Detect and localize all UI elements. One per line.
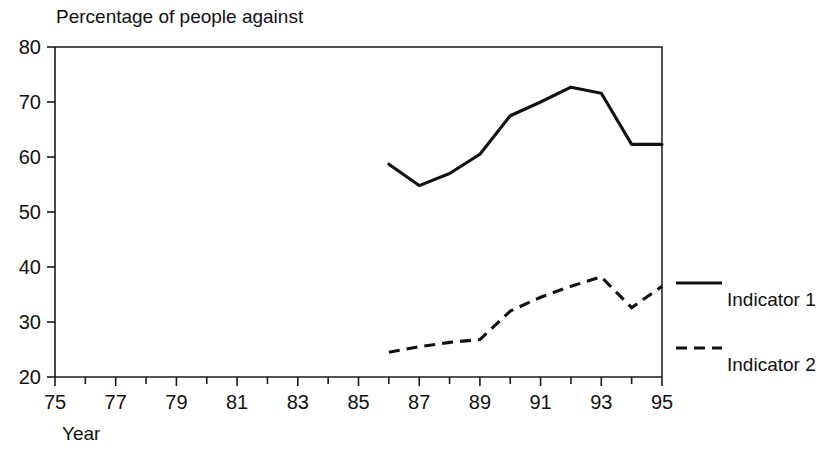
y-tick-label: 80 [19, 36, 41, 58]
plot-border [55, 47, 662, 377]
x-tick-label: 95 [651, 391, 673, 413]
x-tick-label: 85 [347, 391, 369, 413]
x-tick-label: 87 [408, 391, 430, 413]
y-tick-label: 40 [19, 256, 41, 278]
data-series-line-2 [389, 277, 662, 352]
x-tick-label: 91 [529, 391, 551, 413]
x-axis-title: Year [62, 423, 101, 444]
x-tick-label: 93 [590, 391, 612, 413]
legend-label-2: Indicator 2 [727, 354, 816, 375]
chart-legend: Indicator 1Indicator 2 [676, 283, 816, 375]
chart-title: Percentage of people against [56, 6, 304, 27]
x-tick-label: 89 [469, 391, 491, 413]
plot-frame [55, 47, 662, 377]
y-tick-label: 20 [19, 366, 41, 388]
data-series-group [389, 87, 662, 352]
chart-container: Percentage of people against 20304050607… [0, 0, 824, 472]
data-series-line-1 [389, 87, 662, 185]
x-tick-label: 75 [44, 391, 66, 413]
y-tick-label: 30 [19, 311, 41, 333]
y-tick-label: 70 [19, 91, 41, 113]
x-tick-label: 77 [105, 391, 127, 413]
y-axis: 20304050607080 [19, 36, 55, 388]
y-tick-label: 60 [19, 146, 41, 168]
x-tick-label: 79 [165, 391, 187, 413]
y-tick-label: 50 [19, 201, 41, 223]
x-tick-label: 83 [287, 391, 309, 413]
x-tick-label: 81 [226, 391, 248, 413]
legend-label-1: Indicator 1 [727, 289, 816, 310]
x-axis: 7577798183858789919395 [44, 377, 673, 413]
line-chart: Percentage of people against 20304050607… [0, 0, 824, 472]
